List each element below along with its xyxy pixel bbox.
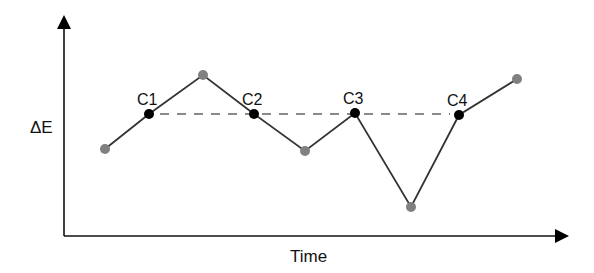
crossing-point	[454, 110, 464, 120]
x-axis-label: Time	[290, 247, 327, 266]
y-axis-label: ΔE	[30, 118, 53, 137]
crossing-point	[249, 109, 259, 119]
x-axis-arrow-icon	[555, 229, 569, 243]
state-point	[406, 202, 416, 212]
crossing-point	[144, 109, 154, 119]
state-point	[100, 144, 110, 154]
crossing-label-c4: C4	[447, 92, 468, 109]
crossing-point	[350, 108, 360, 118]
crossing-labels: C1C2C3C4	[137, 90, 468, 109]
diagram-canvas: C1C2C3C4 ΔE Time	[0, 0, 594, 273]
y-axis-arrow-icon	[57, 15, 71, 29]
state-point	[300, 146, 310, 156]
crossing-label-c2: C2	[242, 91, 263, 108]
crossing-label-c1: C1	[137, 91, 158, 108]
state-point	[512, 74, 522, 84]
state-point	[198, 70, 208, 80]
crossing-label-c3: C3	[343, 90, 364, 107]
